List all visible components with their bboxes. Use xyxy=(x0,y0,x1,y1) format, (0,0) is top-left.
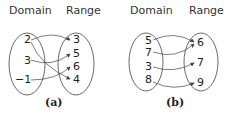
domain-value: 3 xyxy=(145,61,152,73)
range-value: 3 xyxy=(73,34,80,46)
domain-value: 7 xyxy=(145,47,152,59)
range-value: 9 xyxy=(197,77,204,89)
mapping-diagram-b: Domain Range 5 7 3 8 6 7 9 (b) xyxy=(114,0,228,117)
arrow-2-to-3 xyxy=(31,35,70,40)
caption-b: (b) xyxy=(166,96,184,109)
domain-label: Domain xyxy=(130,4,173,17)
range-value: 4 xyxy=(73,74,80,86)
domain-value: 2 xyxy=(24,34,31,46)
arrow-neg1-to-6 xyxy=(31,67,70,80)
domain-value: 8 xyxy=(145,74,152,86)
range-value: 5 xyxy=(73,48,80,60)
caption-a: (a) xyxy=(45,96,63,109)
arrow-8-to-9 xyxy=(153,82,194,87)
range-value: 7 xyxy=(197,57,204,69)
range-label: Range xyxy=(189,4,224,17)
domain-label: Domain xyxy=(9,4,52,17)
range-label: Range xyxy=(66,4,101,17)
arrow-7-to-6 xyxy=(153,44,194,55)
domain-value: 3 xyxy=(24,55,31,67)
arrow-3-to-7 xyxy=(153,63,194,70)
domain-value: −1 xyxy=(15,74,31,86)
arrow-3-to-5 xyxy=(31,54,70,63)
arrow-2-to-4 xyxy=(31,42,70,79)
mapping-diagram-a: Domain Range 2 3 −1 3 5 6 4 (a) xyxy=(0,0,114,117)
range-value: 6 xyxy=(197,37,204,49)
range-value: 6 xyxy=(73,61,80,73)
arrow-5-to-6 xyxy=(153,35,194,42)
